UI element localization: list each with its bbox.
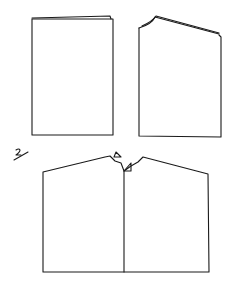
- notch-marker-triangle: [114, 152, 121, 157]
- garment-front: [43, 152, 209, 272]
- step-number-mark: [14, 149, 28, 160]
- panel-flat-top: [32, 16, 113, 135]
- panel-sloped-top: [139, 16, 221, 137]
- diagram-canvas: [0, 0, 232, 282]
